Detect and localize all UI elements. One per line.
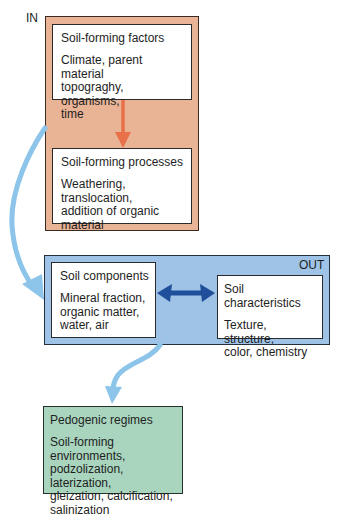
double-arrow-icon	[157, 284, 215, 302]
curved-arrow-icon	[105, 345, 160, 404]
down-arrow-icon	[115, 100, 131, 148]
curved-arrow-icon	[12, 128, 45, 300]
